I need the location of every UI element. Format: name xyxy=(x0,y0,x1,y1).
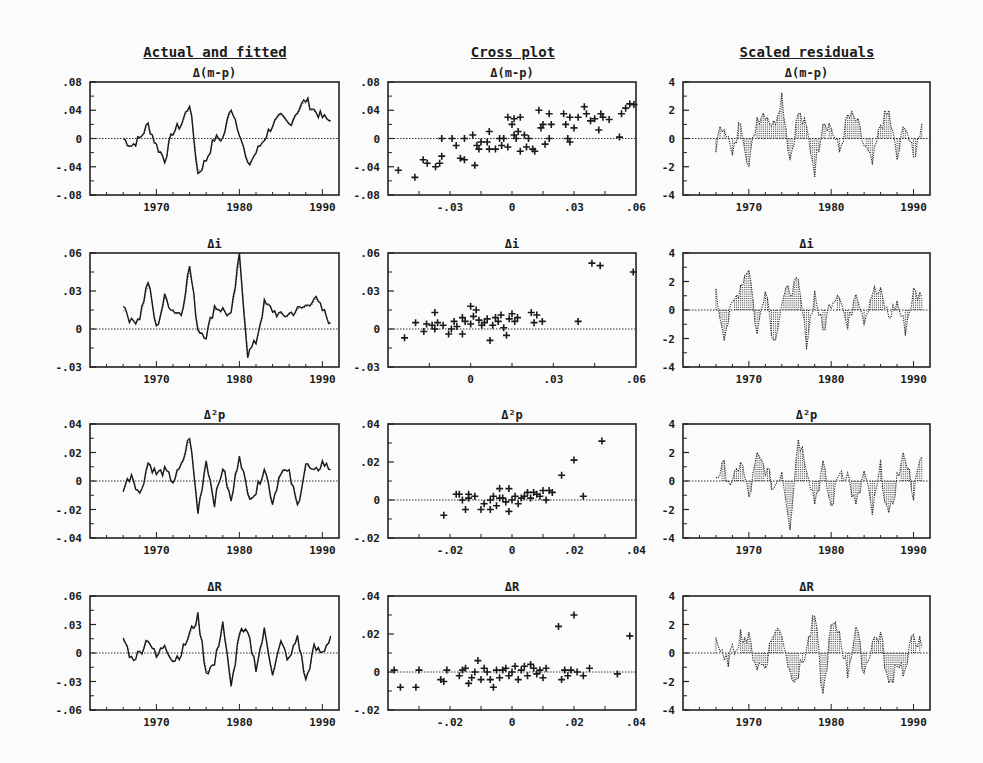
y-tick-label: .04 xyxy=(62,104,82,117)
x-tick-label: 1990 xyxy=(309,544,336,557)
scatter-point xyxy=(397,684,404,691)
scatter-point xyxy=(438,135,445,142)
panel-scaled-residuals-2: Δ²p420-2-4197019801990 xyxy=(662,408,930,557)
panel-cross-plot-0: Δ(m-p).08.040-.04-.08-.030.03.06 xyxy=(354,66,647,214)
y-tick-label: 0 xyxy=(373,133,380,146)
actual-series xyxy=(123,612,331,686)
panel-title: Δ(m-p) xyxy=(490,66,533,80)
scatter-point xyxy=(449,135,456,142)
panel-title: Δ²p xyxy=(501,408,523,422)
panel-actual-fitted-0: Δ(m-p).08.040-.04-.08197019801990 xyxy=(56,66,340,214)
panel-title: Δi xyxy=(799,237,813,251)
scatter-point xyxy=(478,676,485,683)
y-tick-label: -4 xyxy=(662,532,676,545)
panel-actual-fitted-3: ΔR.06.030-.03-.06197019801990 xyxy=(56,580,340,729)
y-tick-label: 2 xyxy=(668,104,675,117)
y-tick-label: .04 xyxy=(360,590,380,603)
scatter-point xyxy=(469,131,476,138)
scatter-point xyxy=(539,318,546,325)
y-tick-label: -4 xyxy=(662,704,676,717)
y-tick-label: .06 xyxy=(62,590,82,603)
y-tick-label: -.04 xyxy=(56,532,83,545)
y-tick-label: -4 xyxy=(662,189,676,202)
x-tick-label: 1970 xyxy=(736,373,763,386)
panel-actual-fitted-2: Δ²p.04.020-.02-.04197019801990 xyxy=(56,408,340,557)
y-tick-label: .03 xyxy=(62,619,82,632)
scatter-point xyxy=(462,506,469,513)
y-tick-label: .03 xyxy=(62,285,82,298)
x-tick-label: 0 xyxy=(509,201,516,214)
y-tick-label: 2 xyxy=(668,447,675,460)
y-tick-label: .06 xyxy=(360,247,380,260)
scatter-point xyxy=(546,110,553,117)
fitted-series xyxy=(123,259,331,353)
y-tick-label: 2 xyxy=(668,619,675,632)
y-tick-label: -.08 xyxy=(56,189,83,202)
scatter-point xyxy=(618,110,625,117)
y-tick-label: 4 xyxy=(668,247,675,260)
panel-title: Δi xyxy=(505,237,519,251)
y-tick-label: .08 xyxy=(360,76,380,89)
scatter-point xyxy=(487,676,494,683)
y-tick-label: 0 xyxy=(75,475,82,488)
panel-title: Δ²p xyxy=(204,408,226,422)
scatter-point xyxy=(622,105,629,112)
scatter-point xyxy=(487,506,494,513)
scatter-point xyxy=(416,667,423,674)
x-tick-label: .04 xyxy=(626,544,646,557)
y-tick-label: 4 xyxy=(668,418,675,431)
scatter-point xyxy=(525,135,532,142)
x-tick-label: 1980 xyxy=(226,716,253,729)
scatter-point xyxy=(546,135,553,142)
y-tick-label: 0 xyxy=(75,323,82,336)
panel-title: ΔR xyxy=(799,580,814,594)
x-tick-label: .06 xyxy=(626,201,646,214)
scatter-point xyxy=(535,107,542,114)
y-tick-label: -2 xyxy=(662,161,675,174)
x-tick-label: 1980 xyxy=(818,716,845,729)
y-tick-label: 0 xyxy=(373,666,380,679)
scatter-point xyxy=(496,485,503,492)
x-tick-label: 1970 xyxy=(143,544,170,557)
scatter-point xyxy=(471,493,478,500)
y-tick-label: -.03 xyxy=(354,361,381,374)
x-tick-label: .06 xyxy=(626,373,646,386)
scatter-point xyxy=(465,495,472,502)
scatter-point xyxy=(581,103,588,110)
y-tick-label: -.03 xyxy=(56,361,83,374)
scatter-point xyxy=(521,131,528,138)
scatter-point xyxy=(401,334,408,341)
scatter-point xyxy=(395,167,402,174)
scatter-point xyxy=(493,502,500,509)
y-tick-label: -.02 xyxy=(354,704,381,717)
scatter-point xyxy=(580,493,587,500)
y-tick-label: .06 xyxy=(62,247,82,260)
x-tick-label: 1990 xyxy=(309,716,336,729)
y-tick-label: .08 xyxy=(62,76,82,89)
scatter-point xyxy=(478,139,485,146)
y-tick-label: 0 xyxy=(75,647,82,660)
x-tick-label: 1970 xyxy=(143,716,170,729)
scatter-point xyxy=(489,322,496,329)
panel-title: ΔR xyxy=(505,580,520,594)
scatter-point xyxy=(486,128,493,135)
x-tick-label: .02 xyxy=(564,544,584,557)
scatter-point xyxy=(440,512,447,519)
panel-cross-plot-1: Δi.06.030-.030.03.06 xyxy=(354,237,647,386)
scatter-point xyxy=(543,497,550,504)
x-tick-label: 1980 xyxy=(818,373,845,386)
x-tick-label: 1980 xyxy=(818,544,845,557)
x-tick-label: 1970 xyxy=(143,201,170,214)
scatter-point xyxy=(566,114,573,121)
panel-title: Δ(m-p) xyxy=(785,66,828,80)
x-tick-label: .04 xyxy=(626,716,646,729)
x-tick-label: 1980 xyxy=(226,373,253,386)
y-tick-label: .04 xyxy=(360,418,380,431)
scatter-point xyxy=(614,670,621,677)
x-tick-label: 0 xyxy=(509,544,516,557)
panel-title: Δi xyxy=(207,237,221,251)
scatter-point xyxy=(505,485,512,492)
scatter-point xyxy=(498,142,505,149)
scatter-point xyxy=(411,174,418,181)
y-tick-label: .02 xyxy=(62,447,82,460)
